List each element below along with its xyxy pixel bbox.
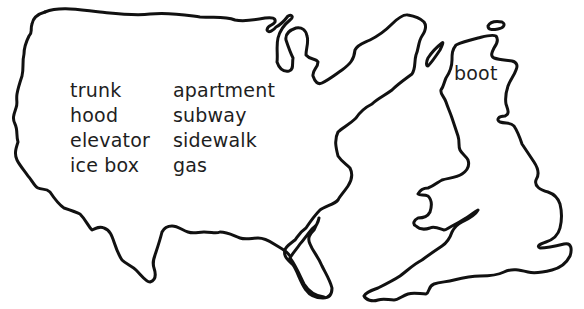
word-boot: boot: [454, 61, 498, 86]
word-hood: hood: [70, 103, 150, 128]
word-subway: subway: [173, 103, 275, 128]
island-small-2: [488, 22, 504, 30]
word-elevator: elevator: [70, 128, 150, 153]
island-small-1: [427, 43, 443, 66]
worksheet-canvas: trunk hood elevator ice box apartment su…: [0, 0, 584, 309]
word-sidewalk: sidewalk: [173, 128, 275, 153]
word-gas: gas: [173, 153, 275, 178]
word-trunk: trunk: [70, 78, 150, 103]
word-ice-box: ice box: [70, 153, 150, 178]
word-apartment: apartment: [173, 78, 275, 103]
usa-words-right: apartment subway sidewalk gas: [173, 78, 275, 178]
usa-words-left: trunk hood elevator ice box: [70, 78, 150, 178]
